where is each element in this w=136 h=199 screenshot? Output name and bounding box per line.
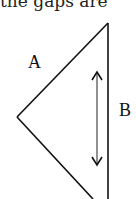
side-a-lower-line (17, 117, 93, 199)
label-a: A (28, 52, 41, 73)
triangle-diagram (0, 0, 136, 199)
label-b: B (119, 100, 131, 121)
double-arrow-icon (92, 72, 102, 165)
